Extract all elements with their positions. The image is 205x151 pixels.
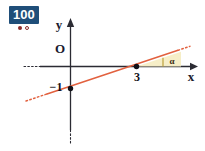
y-intercept-label: −1 xyxy=(50,80,63,94)
x-intercept-label: 3 xyxy=(134,70,140,84)
angle-alpha-label: α xyxy=(169,56,174,66)
y-axis-label: y xyxy=(56,17,63,32)
function-line xyxy=(47,50,178,94)
x-intercept-point xyxy=(134,64,139,69)
y-intercept-point xyxy=(68,86,73,91)
function-line-dotted-right xyxy=(178,46,190,50)
x-axis-label: x xyxy=(188,69,195,84)
coordinate-plane-figure: y x O 3 −1 α xyxy=(0,0,205,151)
origin-label: O xyxy=(55,41,65,56)
y-axis-arrowhead-icon xyxy=(67,18,74,27)
function-line-dotted-left xyxy=(26,94,47,101)
